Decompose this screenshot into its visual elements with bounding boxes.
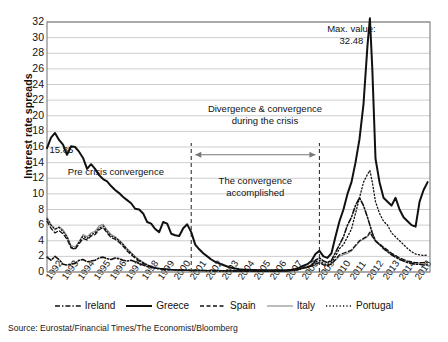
source-caption: Source: Eurostat/Financial Times/The Eco… [8, 323, 238, 333]
legend-swatch-solid-icon [267, 302, 293, 310]
legend-item-italy[interactable]: Italy [267, 301, 315, 311]
legend-item-ireland[interactable]: Ireland [55, 301, 116, 311]
legend-swatch-dotted-icon [326, 302, 352, 310]
legend-item-spain[interactable]: Spain [200, 301, 256, 311]
chart-figure: Interest rate spreads 024681012141618202… [0, 0, 448, 342]
annotation-pre-crisis: Pre crisis convergence [64, 166, 168, 178]
annotation-divergence: Divergence & convergence during the cris… [206, 103, 324, 126]
annotation-start-value: 15.85 [44, 144, 78, 156]
legend-label: Greece [156, 301, 189, 311]
legend-label: Italy [297, 301, 315, 311]
legend-item-portugal[interactable]: Portugal [326, 301, 393, 311]
legend-swatch-dashed-icon [200, 302, 226, 310]
legend-label: Portugal [356, 301, 393, 311]
legend-swatch-dash-dot-icon [55, 302, 81, 310]
legend-label: Ireland [85, 301, 116, 311]
annotation-convergence: The convergence accomplished [207, 175, 303, 198]
legend-item-greece[interactable]: Greece [126, 301, 189, 311]
annotation-max-value: Max. value: 32.48 [319, 23, 383, 46]
legend-swatch-solid-icon [126, 302, 152, 310]
chart-legend: IrelandGreeceSpainItalyPortugal [0, 301, 448, 311]
legend-label: Spain [230, 301, 256, 311]
